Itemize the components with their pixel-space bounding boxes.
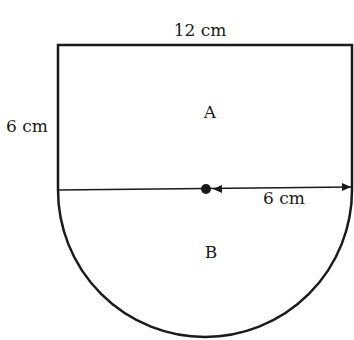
semicircle-b: [58, 190, 352, 337]
left-height-label: 6 cm: [6, 116, 48, 136]
radius-label: 6 cm: [263, 188, 305, 208]
center-point: [201, 184, 211, 194]
radius-arrow-right-icon: [342, 183, 351, 191]
composite-shape-diagram: 12 cm 6 cm 6 cm A B: [0, 0, 354, 340]
region-a-label: A: [203, 102, 217, 122]
radius-arrow-left-icon: [213, 185, 222, 193]
top-width-label: 12 cm: [174, 20, 227, 40]
region-b-label: B: [205, 242, 218, 262]
